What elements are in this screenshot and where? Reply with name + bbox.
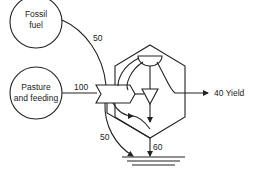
pasture-flow-value: 100	[74, 83, 88, 92]
fossil-fuel-label: Fossil fuel	[16, 10, 56, 29]
interaction-symbol	[96, 85, 135, 103]
yield-value: 40	[214, 88, 223, 98]
fossil-label-line1: Fossil	[16, 10, 56, 19]
inner-flow-arrow	[113, 103, 133, 116]
pasture-label: Pasture and feeding	[10, 83, 62, 102]
yield-label: Yield	[226, 88, 245, 98]
interaction-heat-value: 50	[100, 133, 109, 142]
pasture-label-line2: and feeding	[10, 94, 62, 103]
fossil-flow-value: 50	[93, 34, 102, 43]
interaction-lower	[107, 103, 150, 138]
fossil-flow-line	[62, 20, 106, 85]
inner-flow-merge	[133, 116, 150, 129]
consumer-triangle	[142, 89, 158, 104]
yield-output: 40 Yield	[214, 89, 244, 98]
dome-to-yield	[157, 62, 208, 93]
system-heat-value: 60	[153, 143, 162, 152]
pasture-label-line1: Pasture	[10, 83, 62, 92]
fossil-label-line2: fuel	[16, 21, 56, 30]
